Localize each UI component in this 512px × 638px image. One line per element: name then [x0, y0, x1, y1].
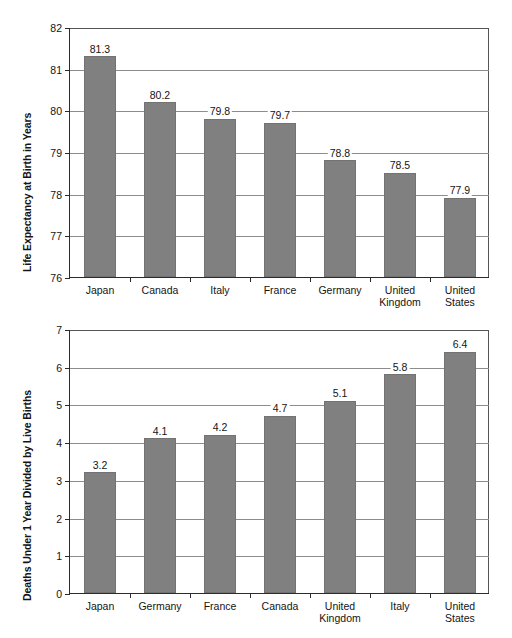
y-axis-tick: [65, 236, 70, 237]
bar-value-label: 78.5: [388, 160, 412, 171]
plot-top-rule: [70, 28, 489, 29]
bar-value-label: 4.7: [271, 403, 290, 414]
bar-value-label: 5.8: [391, 362, 410, 373]
x-axis-tick: [430, 277, 431, 282]
y-axis-tick: [65, 28, 70, 29]
bar-value-label: 79.8: [208, 106, 232, 117]
y-axis-tick: [65, 195, 70, 196]
bar: 79.8: [204, 119, 236, 277]
x-axis-category-label: Germany: [138, 600, 181, 612]
x-axis-tick: [190, 277, 191, 282]
y-axis-tick: [65, 368, 70, 369]
y-axis-tick-label: 78: [50, 189, 62, 200]
y-axis-tick: [65, 481, 70, 482]
plot-right-edge: [488, 28, 489, 277]
y-axis-tick: [65, 111, 70, 112]
bar-value-label: 3.2: [91, 460, 110, 471]
y-axis-tick: [65, 556, 70, 557]
x-axis-category-label: Japan: [86, 284, 115, 296]
bar-value-label: 80.2: [148, 90, 172, 101]
y-axis-tick: [65, 519, 70, 520]
x-axis-category-label: Italy: [390, 600, 409, 612]
x-axis-category-label: United States: [445, 600, 475, 624]
y-axis-tick: [65, 594, 70, 595]
x-axis-category-label: Canada: [262, 600, 299, 612]
x-axis-tick: [370, 593, 371, 598]
plot-top-rule: [70, 330, 489, 331]
bar: 3.2: [84, 472, 116, 593]
plot-area: 7677787980818281.3Japan80.2Canada79.8Ita…: [69, 28, 489, 278]
infant-mortality-chart: Deaths Under 1 Year Divided by Live Birt…: [0, 318, 512, 638]
bar-value-label: 81.3: [88, 44, 112, 55]
y-axis-tick-label: 7: [56, 325, 62, 336]
x-axis-tick: [130, 277, 131, 282]
y-axis-tick-label: 6: [56, 362, 62, 373]
y-axis-tick-label: 79: [50, 148, 62, 159]
bar-value-label: 78.8: [328, 148, 352, 159]
bar: 78.8: [324, 160, 356, 277]
bar: 78.5: [384, 173, 416, 277]
bar: 4.1: [144, 438, 176, 593]
y-axis-tick-label: 1: [56, 551, 62, 562]
plot-right-edge: [488, 330, 489, 593]
gridline: [70, 368, 489, 369]
bar: 4.7: [264, 416, 296, 593]
y-axis-tick: [65, 70, 70, 71]
x-axis-category-label: Germany: [318, 284, 361, 296]
x-axis-tick: [130, 593, 131, 598]
x-axis-tick: [310, 593, 311, 598]
y-axis-title: Life Expectancy at Birth in Years: [21, 113, 33, 272]
x-axis-tick: [190, 593, 191, 598]
gridline: [70, 70, 489, 71]
x-axis-tick: [250, 593, 251, 598]
x-axis-category-label: United States: [445, 284, 475, 308]
y-axis-tick-label: 76: [50, 273, 62, 284]
y-axis-tick-label: 0: [56, 589, 62, 600]
x-axis-category-label: Canada: [142, 284, 179, 296]
plot-area: 012345673.2Japan4.1Germany4.2France4.7Ca…: [69, 330, 489, 594]
y-axis-tick: [65, 153, 70, 154]
bar: 77.9: [444, 198, 476, 277]
x-axis-category-label: United Kingdom: [319, 600, 360, 624]
x-axis-tick: [370, 277, 371, 282]
bar-value-label: 5.1: [331, 388, 350, 399]
x-axis-tick: [250, 277, 251, 282]
y-axis-tick: [65, 405, 70, 406]
x-axis-category-label: Japan: [86, 600, 115, 612]
y-axis-tick-label: 81: [50, 64, 62, 75]
x-axis-category-label: United Kingdom: [379, 284, 420, 308]
bar-value-label: 4.1: [151, 426, 170, 437]
y-axis-tick: [65, 278, 70, 279]
y-axis-tick-label: 4: [56, 438, 62, 449]
bar: 81.3: [84, 56, 116, 277]
life-expectancy-chart: Life Expectancy at Birth in Years 767778…: [0, 0, 512, 320]
bar-value-label: 77.9: [448, 185, 472, 196]
x-axis-category-label: France: [204, 600, 237, 612]
x-axis-tick: [430, 593, 431, 598]
y-axis-tick-label: 80: [50, 106, 62, 117]
bar: 5.8: [384, 374, 416, 593]
y-axis-tick: [65, 443, 70, 444]
bar: 80.2: [144, 102, 176, 277]
bar-value-label: 79.7: [268, 110, 292, 121]
y-axis-title: Deaths Under 1 Year Divided by Live Birt…: [21, 390, 33, 601]
bar: 6.4: [444, 352, 476, 593]
bar: 4.2: [204, 435, 236, 593]
bar: 79.7: [264, 123, 296, 277]
x-axis-category-label: Italy: [210, 284, 229, 296]
x-axis-category-label: France: [264, 284, 297, 296]
y-axis-tick-label: 3: [56, 476, 62, 487]
bar-value-label: 4.2: [211, 422, 230, 433]
y-axis-tick-label: 2: [56, 513, 62, 524]
y-axis-tick-label: 5: [56, 400, 62, 411]
y-axis-tick: [65, 330, 70, 331]
bar-value-label: 6.4: [451, 339, 470, 350]
x-axis-tick: [310, 277, 311, 282]
y-axis-tick-label: 82: [50, 23, 62, 34]
y-axis-tick-label: 77: [50, 231, 62, 242]
bar: 5.1: [324, 401, 356, 593]
